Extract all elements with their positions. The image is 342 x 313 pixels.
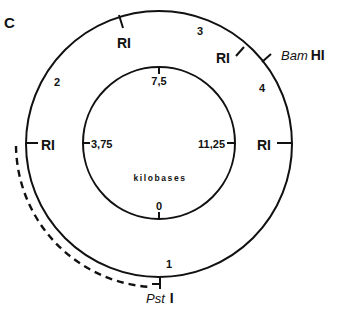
fragment-label-1: 1 (166, 258, 172, 270)
panel-label: C (4, 14, 15, 31)
unit-label: kilobases (133, 173, 186, 183)
scale-label-7-5: 7,5 (151, 75, 166, 87)
site-label-ri-right: RI (257, 137, 271, 153)
site-label-ri-top: RI (117, 35, 131, 51)
scale-label-11-25: 11,25 (198, 138, 225, 150)
site-tick-ri-upper-right (236, 47, 244, 56)
site-label-ri-left: RI (41, 137, 55, 153)
site-tick-bamhi (262, 54, 271, 62)
scale-label-0: 0 (156, 200, 162, 212)
site-label-psti-roman: I (170, 290, 174, 306)
site-label-bamhi-italic: Bam (281, 48, 308, 63)
site-label-psti-italic: Pst (146, 291, 166, 306)
plasmid-map: C RI RI BamHI RI RI PstI 1 2 3 4 0 3,75 … (0, 0, 342, 313)
scale-label-3-75: 3,75 (91, 138, 112, 150)
dashed-region-arc (16, 146, 152, 287)
site-label-bamhi: BamHI (281, 47, 325, 63)
site-label-psti: PstI (146, 290, 174, 306)
fragment-label-3: 3 (197, 25, 203, 37)
fragment-label-2: 2 (54, 76, 60, 88)
site-label-ri-upper-right: RI (216, 50, 230, 66)
fragment-label-4: 4 (259, 82, 266, 94)
outer-ring (26, 11, 292, 277)
site-label-bamhi-roman: HI (311, 47, 325, 63)
